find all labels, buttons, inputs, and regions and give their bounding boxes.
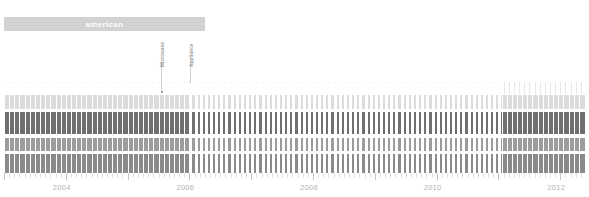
top-tick [545, 82, 546, 94]
axis-minor-tick [205, 173, 206, 178]
axis-minor-tick [323, 173, 324, 178]
axis-minor-tick [468, 173, 469, 178]
bar-gap [287, 83, 290, 175]
axis-minor-tick [406, 173, 407, 178]
axis-minor-tick [102, 173, 103, 178]
bar-gap [339, 83, 342, 175]
axis-minor-tick [334, 173, 335, 178]
bar-gap [558, 83, 559, 175]
bar-gap [45, 83, 46, 175]
axis-minor-tick [550, 173, 551, 178]
axis-major-tick [498, 173, 499, 180]
axis-minor-tick [45, 173, 46, 178]
axis-minor-tick [292, 173, 293, 178]
axis-minor-tick [421, 173, 422, 178]
bar-gap [349, 83, 352, 175]
bar-gap [92, 83, 93, 175]
axis-minor-tick [565, 173, 566, 178]
axis-tick-label: 2004 [53, 183, 71, 192]
bar-gap [107, 83, 108, 175]
axis-minor-tick [380, 173, 381, 178]
bar-gap [493, 83, 496, 175]
axis-minor-tick [328, 173, 329, 178]
bar-gap [138, 83, 139, 175]
bar-gap [574, 83, 575, 175]
axis-major-tick [66, 173, 67, 180]
axis-minor-tick [385, 173, 386, 178]
bar-gap [553, 83, 554, 175]
axis-minor-tick [195, 173, 196, 178]
axis-minor-tick [215, 173, 216, 178]
bar-gap [210, 83, 213, 175]
bar-gap [148, 83, 149, 175]
axis-minor-tick [231, 173, 232, 178]
axis-minor-tick [122, 173, 123, 178]
bar-gap [200, 83, 203, 175]
bar-gap [66, 83, 67, 175]
top-tick [540, 82, 541, 94]
bar-gap [473, 83, 476, 175]
axis-minor-tick [174, 173, 175, 178]
bar-gap [50, 83, 51, 175]
bar-gap [457, 83, 460, 175]
bar-gap [498, 83, 501, 175]
bar-gap [174, 83, 175, 175]
bar-gap [256, 83, 259, 175]
bar-gap [579, 83, 580, 175]
bar-gap [251, 83, 254, 175]
bar-gap [220, 83, 223, 175]
bar-gap [507, 83, 508, 175]
bar-gap [298, 83, 301, 175]
bar-gap [365, 83, 368, 175]
axis-minor-tick [112, 173, 113, 178]
axis-minor-tick [61, 173, 62, 178]
bar-gap [195, 83, 198, 175]
top-tick [550, 82, 551, 94]
axis-minor-tick [56, 173, 57, 178]
axis-minor-tick [287, 173, 288, 178]
bar-gap [522, 83, 523, 175]
bar-gap [267, 83, 270, 175]
bar-gap [262, 83, 265, 175]
axis-major-tick [437, 173, 438, 180]
axis-minor-tick [457, 173, 458, 178]
axis-minor-tick [339, 173, 340, 178]
bar-gap [328, 83, 331, 175]
bar-gap [452, 83, 455, 175]
top-tick [514, 82, 515, 94]
bar-gap [231, 83, 234, 175]
axis-minor-tick [349, 173, 350, 178]
axis-minor-tick [159, 173, 160, 178]
bar-gap [246, 83, 249, 175]
bar-gap [30, 83, 31, 175]
bar-gap [215, 83, 218, 175]
band-divider [4, 134, 585, 138]
bar-gap [117, 83, 118, 175]
axis-minor-tick [169, 173, 170, 178]
bar-gap [189, 83, 192, 175]
bar-gap [395, 83, 398, 175]
bar-gap [354, 83, 357, 175]
bar-gap [527, 83, 528, 175]
axis-major-tick [375, 173, 376, 180]
bar-gap [76, 83, 77, 175]
axis-tick-label: 2012 [547, 183, 565, 192]
axis-minor-tick [493, 173, 494, 178]
axis-minor-tick [426, 173, 427, 178]
axis-minor-tick [117, 173, 118, 178]
top-tick [576, 82, 577, 94]
bar-gap [323, 83, 326, 175]
axis-minor-tick [35, 173, 36, 178]
axis-minor-tick [133, 173, 134, 178]
axis-minor-tick [9, 173, 10, 178]
axis-minor-tick [200, 173, 201, 178]
bar-gap [421, 83, 424, 175]
bar-gap [468, 83, 471, 175]
top-tick [535, 82, 536, 94]
axis-minor-tick [164, 173, 165, 178]
bar-gap [102, 83, 103, 175]
bar-gap [380, 83, 383, 175]
bar-gap [488, 83, 491, 175]
band-divider [4, 151, 585, 154]
bar-gap [19, 83, 20, 175]
